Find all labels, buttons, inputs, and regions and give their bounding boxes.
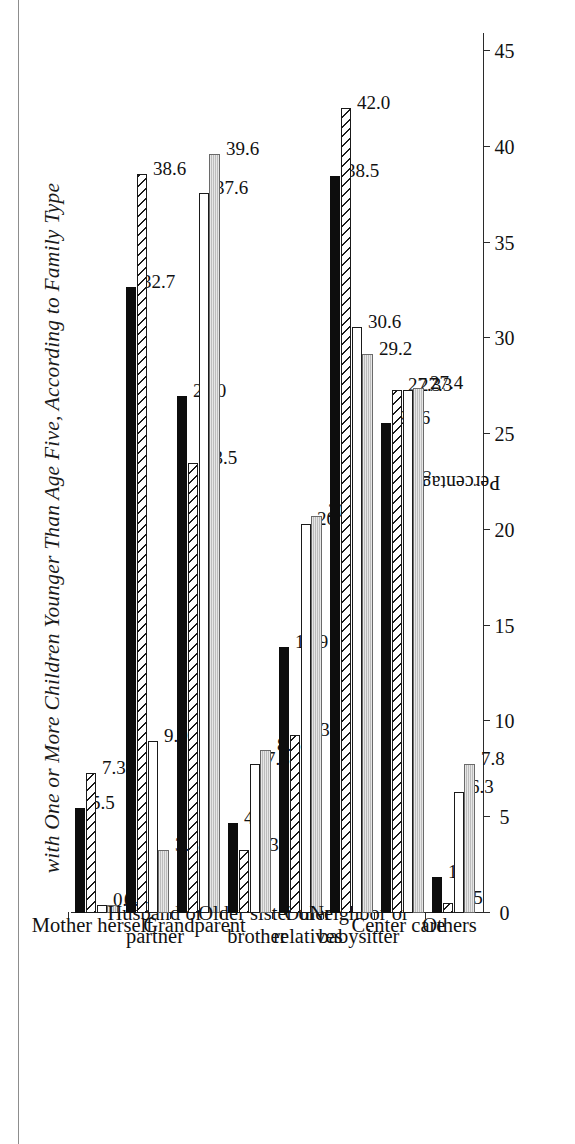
axis-tick-label: 25 xyxy=(475,423,535,446)
bar xyxy=(290,735,300,913)
bar-value-label: 27.4 xyxy=(430,372,463,394)
bar-value-label: 32.7 xyxy=(142,271,175,293)
bar-value-label: 38.6 xyxy=(153,158,186,180)
bar xyxy=(413,388,423,913)
chart-rotation-wrapper: 051015202530354045PercentageMother herse… xyxy=(53,3,523,1063)
bar xyxy=(228,823,238,913)
bar-value-label: 29.2 xyxy=(379,338,412,360)
bar xyxy=(279,647,289,913)
bar xyxy=(392,390,402,913)
axis-tick-label: 15 xyxy=(475,614,535,637)
axis-tick-label: 30 xyxy=(475,327,535,350)
bar xyxy=(209,154,219,913)
bar-value-label: 7.3 xyxy=(102,757,126,779)
bar xyxy=(260,750,270,913)
bar xyxy=(86,773,96,913)
bar xyxy=(250,764,260,913)
axis-tick-label: 45 xyxy=(475,40,535,63)
bar xyxy=(362,354,372,913)
bar-value-label: 37.6 xyxy=(215,177,248,199)
bar-value-label: 39.6 xyxy=(226,138,259,160)
bar xyxy=(148,741,158,913)
axis-tick-label: 5 xyxy=(475,806,535,829)
bar xyxy=(311,516,321,913)
figure-page: with One or More Children Younger Than A… xyxy=(0,0,575,1144)
category-label: Others xyxy=(369,914,529,937)
bar xyxy=(432,877,442,913)
axis-tick-label: 10 xyxy=(475,710,535,733)
bar xyxy=(381,423,391,913)
bar xyxy=(126,287,136,913)
axis-tick-label: 40 xyxy=(475,135,535,158)
bar-value-label: 38.5 xyxy=(346,160,379,182)
bar xyxy=(177,396,187,913)
bar xyxy=(341,108,351,913)
bar xyxy=(330,176,340,913)
bar xyxy=(454,792,464,913)
bar-value-label: 7.8 xyxy=(481,748,505,770)
bar xyxy=(464,764,474,913)
bar xyxy=(199,193,209,913)
page-edge-rule xyxy=(18,0,19,1144)
axis-tick-label: 35 xyxy=(475,231,535,254)
bar-value-label: 42.0 xyxy=(357,92,390,114)
axis-tick-label: 20 xyxy=(475,518,535,541)
bar xyxy=(352,327,362,913)
bar-value-label: 30.6 xyxy=(368,311,401,333)
bar xyxy=(158,850,168,913)
bar xyxy=(403,390,413,913)
bar xyxy=(188,463,198,913)
bar xyxy=(137,174,147,913)
bar xyxy=(443,903,453,913)
bar xyxy=(75,808,85,913)
bar-chart: 051015202530354045PercentageMother herse… xyxy=(53,3,523,1063)
bar xyxy=(301,524,311,913)
